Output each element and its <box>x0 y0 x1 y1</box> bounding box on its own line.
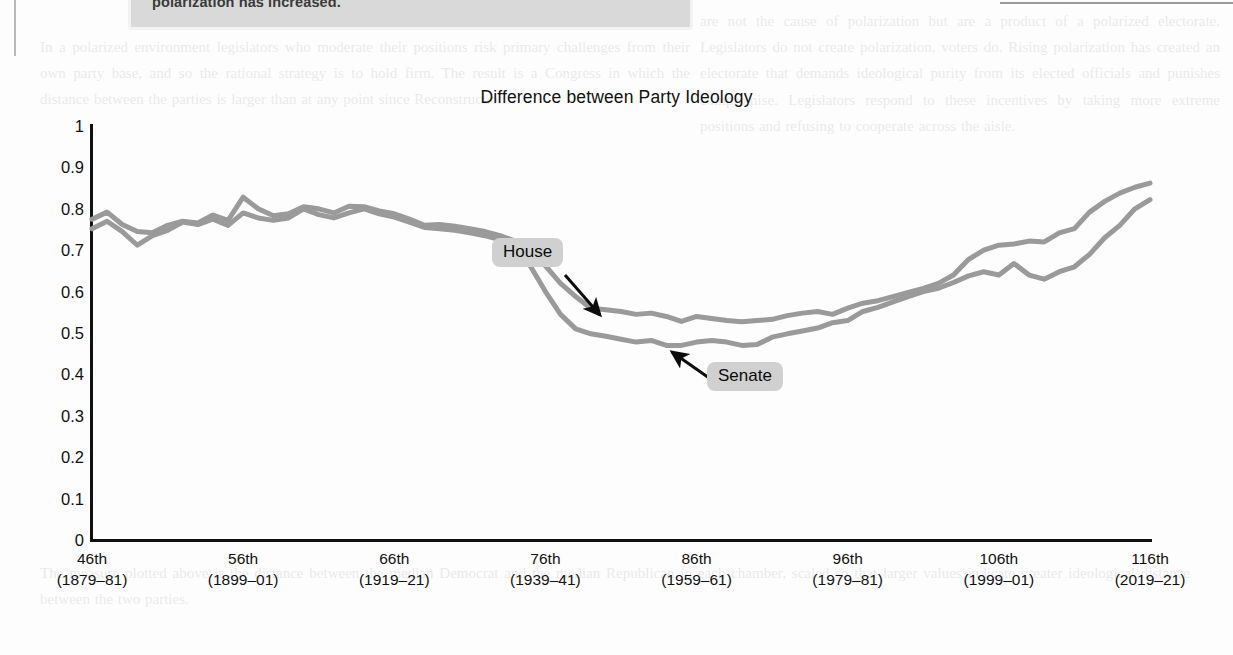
senate-annotation-label: Senate <box>707 362 783 391</box>
scanned-page: polarization has increased. are not the … <box>0 0 1233 655</box>
annotation-arrows <box>0 0 1233 655</box>
senate-annotation-arrow <box>672 352 712 380</box>
house-annotation-arrow <box>565 275 600 315</box>
house-annotation-label: House <box>492 238 563 267</box>
party-ideology-chart: Difference between Party Ideology 00.10.… <box>0 0 1233 655</box>
